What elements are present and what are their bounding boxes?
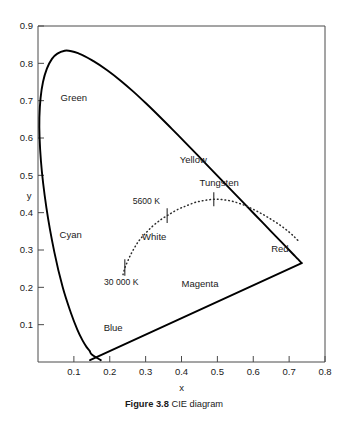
label-magenta: Magenta [182,278,220,289]
y-tick-label-0.6: 0.6 [20,132,33,143]
label-tungsten: Tungsten [199,177,238,188]
label-red: Red [271,243,288,254]
y-tick-label-0.1: 0.1 [20,319,33,330]
label-cyan: Cyan [60,229,82,240]
label-blue: Blue [104,322,123,333]
y-tick-label-0.9: 0.9 [20,20,33,31]
y-axis-title: y [27,190,32,201]
y-tick-label-0.5: 0.5 [20,170,33,181]
y-tick-label-0.2: 0.2 [20,282,33,293]
figure-caption: Figure 3.8 CIE diagram [0,399,348,409]
x-tick-label-0.7: 0.7 [283,366,296,377]
cie-chromaticity-chart: 0.10.20.30.40.50.60.70.80.9 0.10.20.30.4… [0,0,348,423]
figure-caption-label: Figure 3.8 [125,399,169,409]
cie-diagram-figure: 0.10.20.30.40.50.60.70.80.9 0.10.20.30.4… [0,0,348,423]
x-axis-title: x [179,382,184,393]
y-axis: 0.10.20.30.40.50.60.70.80.9 [20,20,44,330]
label-green: Green [61,92,87,103]
chart-annotations: GreenCyanBlueYellowMagentaRedWhiteTungst… [60,92,289,333]
plot-frame [38,26,325,362]
label-30000k: 30 000 K [104,277,139,287]
x-tick-label-0.6: 0.6 [247,366,260,377]
x-tick-label-0.4: 0.4 [175,366,188,377]
y-tick-label-0.4: 0.4 [20,207,33,218]
figure-caption-title: CIE diagram [171,399,223,409]
label-white: White [142,231,166,242]
x-tick-label-0.5: 0.5 [211,366,224,377]
x-tick-label-0.3: 0.3 [139,366,152,377]
y-tick-label-0.7: 0.7 [20,95,33,106]
y-tick-label-0.3: 0.3 [20,244,33,255]
x-tick-label-0.8: 0.8 [318,366,331,377]
x-axis: 0.10.20.30.40.50.60.70.8 [67,356,331,377]
label-yellow: Yellow [180,154,207,165]
x-tick-label-0.1: 0.1 [67,366,80,377]
plot-border [38,26,325,362]
label-5600k: 5600 K [133,196,161,206]
x-tick-label-0.2: 0.2 [103,366,116,377]
y-tick-label-0.8: 0.8 [20,58,33,69]
